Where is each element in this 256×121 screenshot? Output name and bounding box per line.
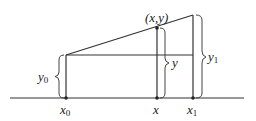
label-x: x	[152, 102, 159, 117]
interpolation-line	[66, 15, 193, 55]
brace-y1	[196, 15, 206, 98]
label-y1: y1	[206, 49, 218, 65]
label-x0: x0	[59, 102, 71, 118]
label-point-xy: (x,y)	[145, 10, 168, 25]
point-xy	[155, 26, 159, 30]
label-y: y	[170, 55, 178, 70]
label-y0: y0	[36, 69, 49, 85]
point-x1	[191, 96, 195, 100]
brace-y	[160, 28, 169, 98]
interpolation-diagram: (x,y) y0 y y1 x0 x x1	[0, 0, 256, 121]
point-x	[155, 96, 159, 100]
label-x1: x1	[186, 102, 197, 118]
brace-y0	[55, 55, 64, 98]
point-x0	[64, 96, 68, 100]
